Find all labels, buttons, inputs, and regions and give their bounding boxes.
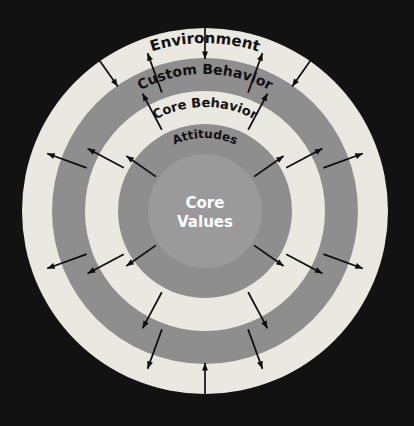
diagram-canvas: EnvironmentCustom BehaviorCore BehaviorA… [0,0,414,426]
core-values-line2: Values [177,213,233,231]
core-values-line1: Core [186,194,225,212]
concentric-circles-diagram: EnvironmentCustom BehaviorCore BehaviorA… [0,0,414,426]
